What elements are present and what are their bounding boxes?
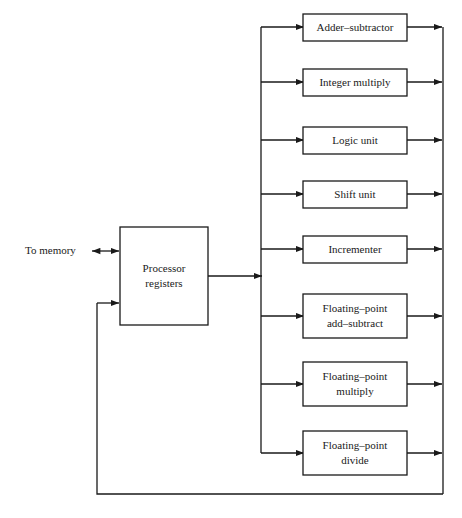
to-memory-connector: To memory (25, 244, 119, 256)
unit-label-floating-point-add-subtract-line1: Floating–point (323, 302, 388, 314)
functional-unit-row-integer-multiply[interactable]: Integer multiply (261, 69, 442, 96)
unit-label-integer-multiply: Integer multiply (319, 76, 391, 88)
functional-unit-row-logic-unit[interactable]: Logic unit (261, 127, 442, 154)
unit-label-logic-unit: Logic unit (332, 134, 378, 146)
diagram-svg: To memory Processor registers (0, 0, 462, 518)
functional-unit-row-incrementer[interactable]: Incrementer (261, 236, 442, 263)
functional-unit-row-floating-point-multiply[interactable]: Floating–point multiply (261, 362, 442, 406)
unit-label-floating-point-multiply-line2: multiply (336, 385, 374, 397)
unit-label-adder-subtractor: Adder–subtractor (317, 21, 394, 33)
unit-label-floating-point-divide-line1: Floating–point (323, 439, 388, 451)
block-diagram-canvas: To memory Processor registers (0, 0, 462, 518)
unit-label-incrementer: Incrementer (328, 243, 381, 255)
functional-unit-row-floating-point-divide[interactable]: Floating–point divide (261, 431, 442, 475)
processor-registers-label-line1: Processor (143, 262, 186, 274)
unit-label-floating-point-add-subtract-line2: add–subtract (327, 317, 383, 329)
processor-registers-label-line2: registers (145, 277, 182, 289)
unit-label-shift-unit: Shift unit (334, 188, 375, 200)
unit-label-floating-point-multiply-line1: Floating–point (323, 370, 388, 382)
to-memory-label: To memory (25, 244, 76, 256)
functional-unit-row-adder-subtractor[interactable]: Adder–subtractor (261, 14, 442, 41)
functional-unit-row-shift-unit[interactable]: Shift unit (261, 181, 442, 208)
unit-label-floating-point-divide-line2: divide (341, 454, 369, 466)
processor-registers-block[interactable]: Processor registers (120, 227, 208, 325)
functional-unit-row-floating-point-add-subtract[interactable]: Floating–point add–subtract (261, 294, 442, 338)
